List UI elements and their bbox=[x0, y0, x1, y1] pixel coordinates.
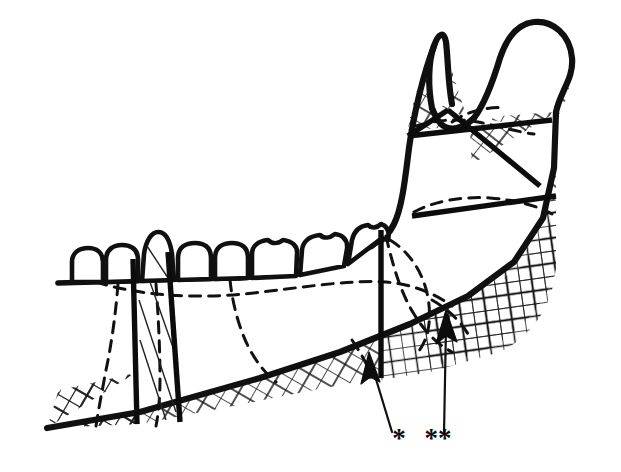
tooth-incisor-1 bbox=[72, 248, 103, 282]
mandible-posterior-border bbox=[474, 22, 572, 118]
marker-label-double: ** bbox=[425, 423, 452, 453]
marker-label-single: * bbox=[392, 423, 406, 453]
mandible-diagram: * ** bbox=[0, 0, 621, 472]
tooth-premolar-1 bbox=[178, 243, 211, 280]
tooth-molar-1 bbox=[252, 240, 297, 278]
tooth-molar-2 bbox=[300, 234, 347, 275]
figure-root: * ** bbox=[0, 0, 621, 472]
tooth-premolar-2 bbox=[215, 243, 248, 279]
